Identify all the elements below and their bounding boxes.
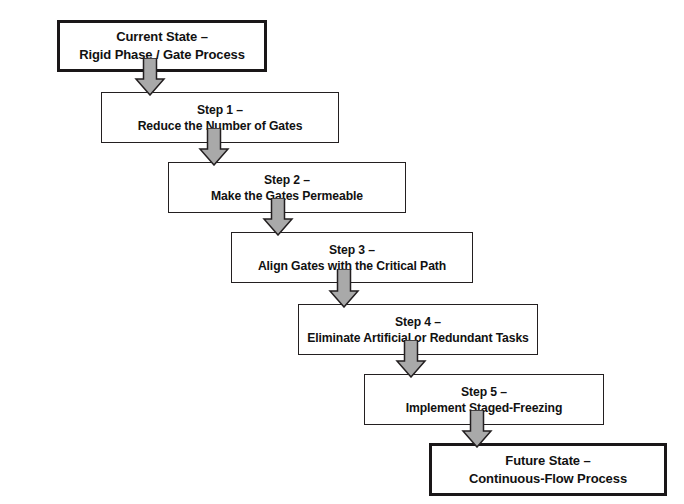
flowchart-canvas: Current State – Rigid Phase / Gate Proce…	[0, 0, 684, 504]
node-current-state-line-1: Current State –	[116, 28, 208, 46]
arrow-step2-to-step3	[262, 198, 294, 236]
arrow-step3-to-step4	[328, 269, 360, 308]
node-future-state-line-2: Continuous-Flow Process	[469, 470, 627, 488]
arrow-step5-to-future	[461, 410, 493, 448]
node-step-1-line-1: Step 1 –	[197, 102, 243, 118]
node-step-2-line-1: Step 2 –	[264, 172, 310, 188]
node-future-state[interactable]: Future State – Continuous-Flow Process	[429, 443, 667, 496]
node-step-4-line-1: Step 4 –	[395, 314, 441, 330]
node-step-5-line-1: Step 5 –	[461, 384, 507, 400]
arrow-step4-to-step5	[395, 340, 427, 378]
node-step-3-line-1: Step 3 –	[329, 242, 375, 258]
arrow-step1-to-step2	[198, 128, 230, 166]
arrow-current-to-step1	[134, 58, 166, 96]
node-future-state-line-1: Future State –	[505, 452, 590, 470]
